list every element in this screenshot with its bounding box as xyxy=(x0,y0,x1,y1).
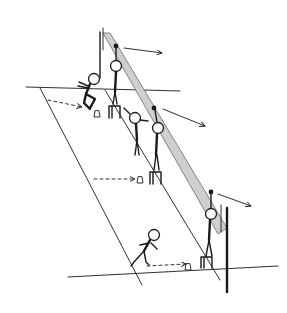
head-icon xyxy=(153,123,164,134)
arms xyxy=(78,82,88,88)
lunging-player xyxy=(131,230,160,267)
movement-arrow-3 xyxy=(147,264,186,266)
body xyxy=(156,134,157,155)
toss-arrow-3 xyxy=(218,194,251,206)
head-icon xyxy=(111,61,122,72)
toss-arrow-2 xyxy=(163,109,205,126)
drill-illustration xyxy=(0,0,287,313)
head-icon xyxy=(130,113,141,124)
shuttlecock-icon xyxy=(94,111,100,117)
inner-sideline xyxy=(105,90,220,280)
legs xyxy=(135,140,139,155)
stand-icon xyxy=(201,257,212,268)
legs xyxy=(84,94,95,109)
net-band xyxy=(103,33,227,234)
toss-arrow-1 xyxy=(124,48,162,53)
body xyxy=(115,72,116,92)
raised-hand-icon xyxy=(152,106,157,111)
head-icon xyxy=(206,209,217,220)
legs xyxy=(131,251,149,266)
shuttlecocks xyxy=(94,111,191,270)
legs xyxy=(206,240,212,256)
far-baseline xyxy=(26,87,180,91)
body xyxy=(136,124,137,140)
legs xyxy=(113,92,117,104)
crouching-player xyxy=(78,74,100,110)
body xyxy=(209,220,210,240)
drill-diagram-canvas xyxy=(0,0,287,313)
left-sideline xyxy=(40,88,142,285)
body xyxy=(144,240,150,251)
legs xyxy=(154,155,159,170)
shuttlecock-icon xyxy=(185,264,191,270)
movement-arrow-1 xyxy=(48,100,82,107)
middle-player xyxy=(124,108,148,155)
shuttlecock-icon xyxy=(137,177,143,183)
near-baseline xyxy=(68,266,278,277)
